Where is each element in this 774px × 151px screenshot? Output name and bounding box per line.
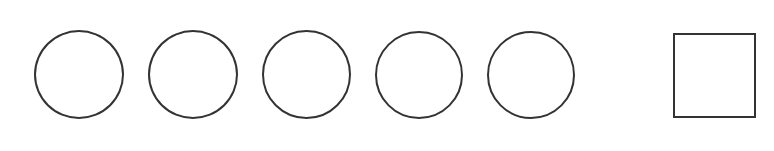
circle-1 bbox=[34, 30, 124, 119]
circle-5 bbox=[487, 31, 575, 119]
shapes-canvas bbox=[0, 0, 774, 151]
circle-4 bbox=[375, 31, 463, 119]
circle-3 bbox=[262, 30, 351, 119]
square-1 bbox=[673, 33, 756, 118]
circle-2 bbox=[148, 30, 238, 119]
